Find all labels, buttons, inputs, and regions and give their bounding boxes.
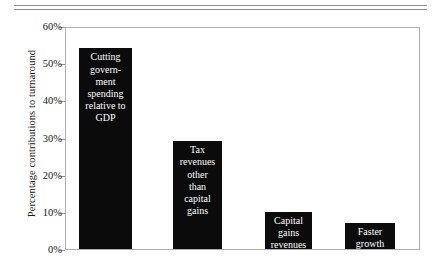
bar-label-text-2: Tax revenues other than capital gains — [173, 141, 222, 217]
bar-label-text-4: Faster growth — [345, 223, 395, 249]
bar-tax-revenues-other-than-capital-gains[interactable]: Tax revenues other than capital gains — [173, 141, 222, 249]
bar-cutting-government-spending[interactable]: Cutting govern- ment spending relative t… — [79, 48, 132, 249]
y-tick-label-30: 30% — [2, 134, 62, 144]
bar-faster-growth[interactable]: Faster growth — [345, 223, 395, 249]
plot-area: Cutting govern- ment spending relative t… — [65, 27, 420, 250]
y-tick-label-0: 0% — [2, 245, 62, 255]
header-rule-bottom — [14, 9, 427, 10]
bar-capital-gains-revenues[interactable]: Capital gains revenues — [265, 212, 312, 249]
bar-label-text-1: Cutting govern- ment spending relative t… — [79, 48, 132, 124]
y-tick-label-10: 10% — [2, 208, 62, 218]
figure: Percentage contributions to turnaround 6… — [0, 0, 435, 277]
header-rule-top — [14, 5, 427, 6]
y-tick-label-50: 50% — [2, 59, 62, 69]
bar-label-text-3: Capital gains revenues — [265, 212, 312, 249]
y-tick-label-20: 20% — [2, 171, 62, 181]
y-tick-label-60: 60% — [2, 22, 62, 32]
y-tick-label-40: 40% — [2, 96, 62, 106]
